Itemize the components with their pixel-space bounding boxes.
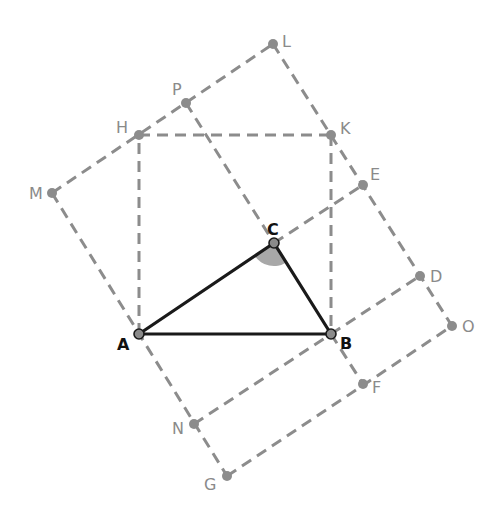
construction-points — [47, 39, 457, 481]
label-C: C — [267, 220, 279, 239]
point-K — [326, 130, 336, 140]
triangle-vertices — [134, 238, 336, 339]
label-L: L — [282, 32, 291, 51]
point-N — [189, 419, 199, 429]
segment-PC — [186, 103, 274, 243]
label-H: H — [116, 118, 128, 137]
point-L — [268, 39, 278, 49]
label-B: B — [340, 334, 352, 353]
segment-NB — [194, 334, 331, 424]
point-P — [181, 98, 191, 108]
label-E: E — [370, 165, 380, 184]
point-F — [358, 379, 368, 389]
construction-lines — [52, 44, 452, 476]
label-K: K — [340, 119, 351, 138]
point-O — [447, 321, 457, 331]
label-D: D — [430, 267, 442, 286]
triangle-ABC — [139, 243, 331, 334]
label-M: M — [29, 184, 43, 203]
point-B — [326, 329, 336, 339]
point-D — [415, 271, 425, 281]
label-N: N — [172, 419, 184, 438]
point-C — [269, 238, 279, 248]
segment-CE — [274, 185, 363, 243]
label-A: A — [117, 335, 130, 354]
point-A — [134, 329, 144, 339]
label-G: G — [204, 475, 216, 494]
geometry-diagram: A B C H K P L M E D O F N G — [0, 0, 499, 514]
label-F: F — [372, 378, 381, 397]
segment-ML — [52, 44, 273, 193]
point-E — [358, 180, 368, 190]
point-M — [47, 188, 57, 198]
label-P: P — [172, 80, 182, 99]
point-G — [222, 471, 232, 481]
point-H — [134, 130, 144, 140]
label-O: O — [462, 317, 475, 336]
segment-BD — [331, 276, 420, 334]
